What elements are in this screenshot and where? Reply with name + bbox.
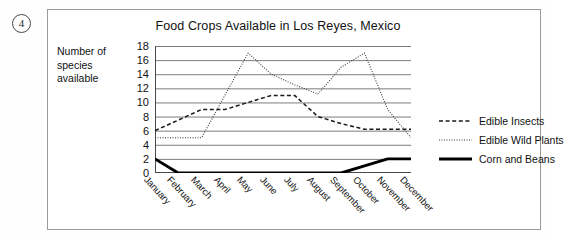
legend-item: Corn and Beans xyxy=(439,149,568,168)
plot-area xyxy=(155,46,411,173)
dotted-line-swatch xyxy=(439,135,472,145)
y-axis-label: Number of species available xyxy=(57,45,129,86)
chart-figure-box: Food Crops Available in Los Reyes, Mexic… xyxy=(47,9,541,230)
x-tick-label: August xyxy=(305,174,333,203)
y-tick-label: 8 xyxy=(143,111,149,123)
y-tick-label: 14 xyxy=(137,68,149,80)
y-tick-label: 4 xyxy=(143,139,149,151)
y-tick-label: 10 xyxy=(137,96,149,108)
y-tick-label: 16 xyxy=(137,54,149,66)
chart-title: Food Crops Available in Los Reyes, Mexic… xyxy=(78,19,478,33)
x-tick-label: May xyxy=(235,174,255,195)
legend-label: Edible Insects xyxy=(479,115,544,127)
x-tick-label: June xyxy=(258,174,280,197)
legend-label: Edible Wild Plants xyxy=(479,134,564,146)
plot-wrapper: 024681012141618 xyxy=(133,46,431,173)
x-axis-labels: JanuaryFebruaryMarchAprilMayJuneJulyAugu… xyxy=(155,174,455,240)
y-tick-label: 12 xyxy=(137,82,149,94)
solid-line-swatch xyxy=(439,154,472,164)
gridlines xyxy=(155,47,411,160)
chart-svg xyxy=(155,46,411,173)
legend-item: Edible Insects xyxy=(439,111,568,130)
y-tick-label: 6 xyxy=(143,125,149,137)
series-line xyxy=(155,95,411,130)
series-line xyxy=(155,159,411,173)
legend-item: Edible Wild Plants xyxy=(439,130,568,149)
dashed-line-swatch xyxy=(439,116,472,126)
item-number-badge: 4 xyxy=(12,14,31,33)
axes xyxy=(155,46,411,173)
y-axis-ticks: 024681012141618 xyxy=(133,46,152,173)
y-tick-label: 2 xyxy=(143,153,149,165)
y-tick-label: 18 xyxy=(137,40,149,52)
legend-label: Corn and Beans xyxy=(479,153,555,165)
x-tick-label: April xyxy=(212,174,233,195)
series-lines xyxy=(155,53,411,173)
x-tick-label: July xyxy=(282,174,302,194)
chart-legend: Edible InsectsEdible Wild PlantsCorn and… xyxy=(439,111,568,168)
